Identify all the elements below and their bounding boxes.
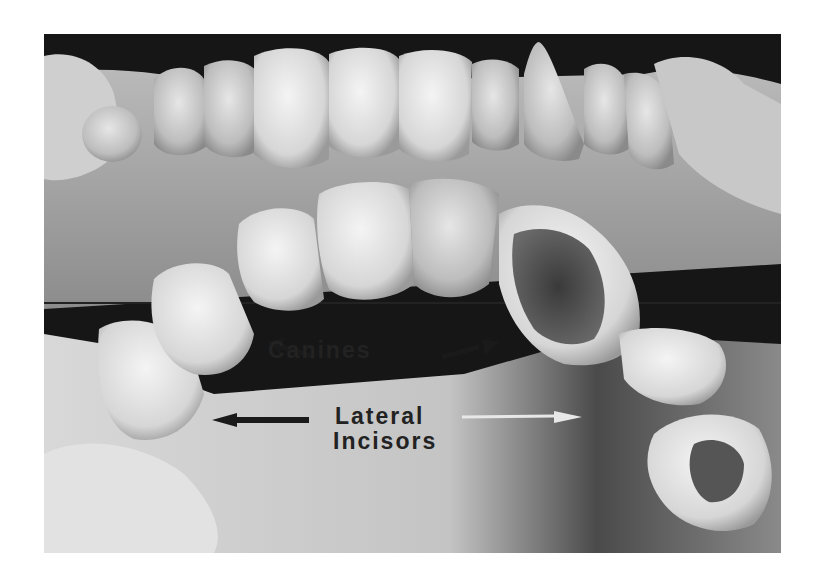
dental-cast-illustration <box>44 34 781 553</box>
dental-cast-photo: Canines Lateral Incisors <box>44 34 781 553</box>
lateral-incisors-label-line2: Incisors <box>333 429 437 453</box>
canines-label: Canines <box>268 338 371 362</box>
lateral-incisors-label-line1: Lateral <box>335 404 424 428</box>
